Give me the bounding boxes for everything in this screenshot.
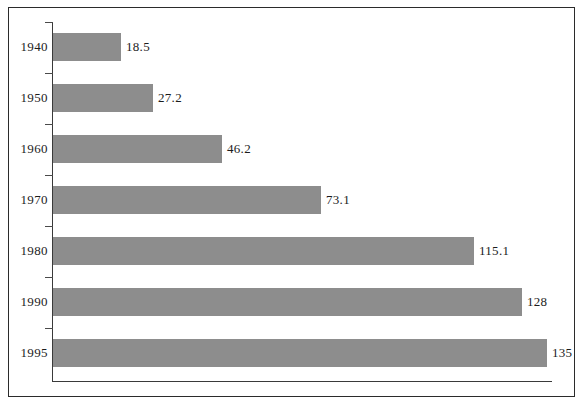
axis-tick [45, 22, 53, 23]
axis-tick [45, 175, 53, 176]
bar-rect[interactable] [53, 288, 522, 316]
bar-rect[interactable] [53, 33, 121, 61]
bar-value-label: 128 [522, 294, 547, 310]
bar-value-label: 27.2 [153, 90, 182, 106]
axis-tick [45, 124, 53, 125]
bar-row: 1980 115.1 [0, 237, 585, 265]
axis-tick [45, 328, 53, 329]
plot-area: 1940 18.5 1950 27.2 1960 46.2 1970 73.1 … [0, 0, 585, 409]
bar-rect[interactable] [53, 186, 321, 214]
bar-rect[interactable] [53, 135, 222, 163]
bar-row: 1940 18.5 [0, 33, 585, 61]
x-axis-axis-baseline [52, 381, 552, 382]
bar-rect[interactable] [53, 84, 153, 112]
bar-value-label: 135 [547, 345, 572, 361]
bar-category-label: 1980 [0, 243, 52, 259]
bar-row: 1960 46.2 [0, 135, 585, 163]
bar-value-label: 115.1 [474, 243, 509, 259]
bar-rect[interactable] [53, 237, 474, 265]
bar-row: 1990 128 [0, 288, 585, 316]
bar-category-label: 1990 [0, 294, 52, 310]
bar-category-label: 1995 [0, 345, 52, 361]
bar-chart-figure: 1940 18.5 1950 27.2 1960 46.2 1970 73.1 … [0, 0, 585, 409]
bar-category-label: 1970 [0, 192, 52, 208]
axis-tick [45, 226, 53, 227]
bar-category-label: 1950 [0, 90, 52, 106]
bar-value-label: 73.1 [321, 192, 350, 208]
bar-category-label: 1940 [0, 39, 52, 55]
bar-category-label: 1960 [0, 141, 52, 157]
axis-tick [45, 277, 53, 278]
bar-value-label: 18.5 [121, 39, 150, 55]
bar-row: 1970 73.1 [0, 186, 585, 214]
bar-rect[interactable] [53, 339, 547, 367]
axis-tick [45, 73, 53, 74]
bar-row: 1950 27.2 [0, 84, 585, 112]
bar-value-label: 46.2 [222, 141, 251, 157]
bar-row: 1995 135 [0, 339, 585, 367]
